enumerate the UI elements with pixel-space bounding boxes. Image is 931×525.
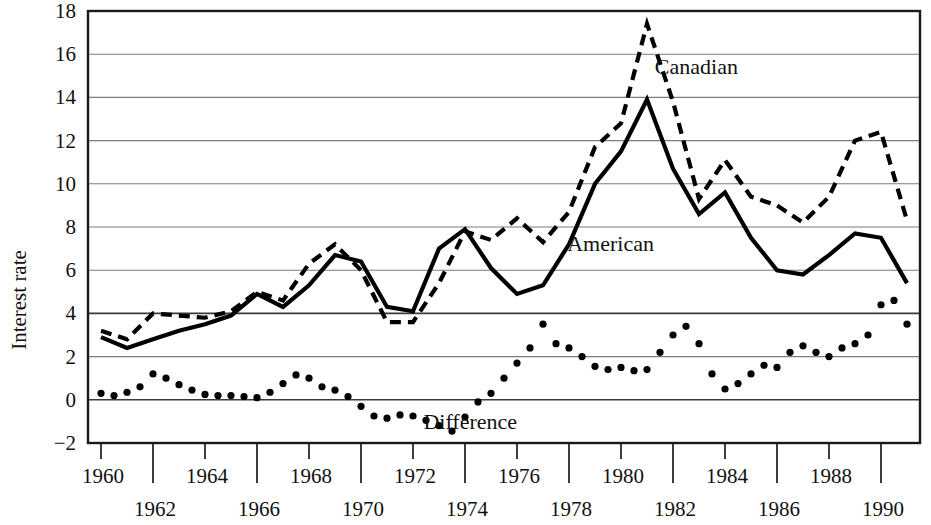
x-tick-label-1970: 1970 <box>342 497 384 521</box>
data-point <box>162 375 169 382</box>
series-annotations: CanadianAmericanDifference <box>423 54 738 434</box>
data-point <box>526 344 533 351</box>
x-tick-label-1976: 1976 <box>498 464 540 488</box>
data-point <box>695 340 702 347</box>
data-point <box>279 380 286 387</box>
data-point <box>669 331 676 338</box>
data-point <box>552 340 559 347</box>
chart-figure: −2024681012141618 1960196219641966196819… <box>0 0 931 525</box>
x-tick-label-1988: 1988 <box>810 464 852 488</box>
y-tick-label-16: 16 <box>55 42 76 66</box>
y-axis-tick-labels: −2024681012141618 <box>54 0 77 455</box>
y-axis-title: Interest rate <box>7 250 31 350</box>
data-point <box>565 344 572 351</box>
data-point <box>604 366 611 373</box>
data-point <box>487 390 494 397</box>
data-point <box>630 367 637 374</box>
data-point <box>331 386 338 393</box>
data-point <box>747 370 754 377</box>
y-tick-label-10: 10 <box>55 172 76 196</box>
y-tick-label-14: 14 <box>55 85 77 109</box>
data-point <box>578 353 585 360</box>
data-point <box>773 364 780 371</box>
y-tick-label-2: 2 <box>66 345 77 369</box>
y-tick-label--2: −2 <box>54 431 76 455</box>
x-tick-label-1968: 1968 <box>290 464 332 488</box>
y-tick-label-8: 8 <box>66 215 77 239</box>
data-point <box>227 392 234 399</box>
x-tick-label-1980: 1980 <box>602 464 644 488</box>
x-tick-label-1960: 1960 <box>82 464 124 488</box>
data-point <box>591 363 598 370</box>
x-tick-label-1990: 1990 <box>862 497 904 521</box>
series-american <box>101 100 907 348</box>
data-point <box>318 383 325 390</box>
data-point <box>409 412 416 419</box>
data-point <box>370 412 377 419</box>
data-point <box>643 366 650 373</box>
annotation-canadian: Canadian <box>655 54 738 79</box>
data-point <box>825 353 832 360</box>
data-point <box>266 389 273 396</box>
data-point <box>890 297 897 304</box>
data-point <box>201 391 208 398</box>
data-point <box>136 383 143 390</box>
data-point <box>903 321 910 328</box>
data-point <box>656 349 663 356</box>
x-tick-label-1972: 1972 <box>394 464 436 488</box>
x-tick-label-1974: 1974 <box>446 497 489 521</box>
data-point <box>799 342 806 349</box>
data-point <box>760 362 767 369</box>
data-point <box>864 331 871 338</box>
data-point <box>292 371 299 378</box>
interest-rate-line-chart: −2024681012141618 1960196219641966196819… <box>0 0 931 525</box>
data-point <box>877 301 884 308</box>
data-series <box>97 24 910 435</box>
data-point <box>149 370 156 377</box>
y-tick-label-18: 18 <box>55 0 76 23</box>
x-tick-label-1982: 1982 <box>654 497 696 521</box>
y-tick-label-6: 6 <box>66 258 77 282</box>
data-point <box>396 411 403 418</box>
data-point <box>682 323 689 330</box>
data-point <box>214 392 221 399</box>
data-point <box>110 392 117 399</box>
data-point <box>357 403 364 410</box>
data-point <box>838 344 845 351</box>
y-tick-label-12: 12 <box>55 129 76 153</box>
data-point <box>188 386 195 393</box>
data-point <box>721 385 728 392</box>
series-canadian <box>101 24 907 339</box>
x-tick-label-1984: 1984 <box>706 464 749 488</box>
data-point <box>240 393 247 400</box>
x-tick-label-1986: 1986 <box>758 497 800 521</box>
gridlines <box>88 54 920 400</box>
data-point <box>305 375 312 382</box>
data-point <box>812 349 819 356</box>
data-point <box>708 370 715 377</box>
data-point <box>617 364 624 371</box>
x-tick-label-1978: 1978 <box>550 497 592 521</box>
x-tick-label-1962: 1962 <box>134 497 176 521</box>
data-point <box>539 321 546 328</box>
annotation-american: American <box>567 231 654 256</box>
data-point <box>123 389 130 396</box>
x-tick-label-1966: 1966 <box>238 497 280 521</box>
y-tick-label-4: 4 <box>66 301 77 325</box>
data-point <box>734 380 741 387</box>
x-tick-label-1964: 1964 <box>186 464 229 488</box>
data-point <box>500 375 507 382</box>
data-point <box>344 393 351 400</box>
data-point <box>513 359 520 366</box>
data-point <box>253 394 260 401</box>
data-point <box>383 415 390 422</box>
data-point <box>851 340 858 347</box>
data-point <box>474 398 481 405</box>
y-tick-label-0: 0 <box>66 388 77 412</box>
data-point <box>786 349 793 356</box>
x-axis-tick-labels: 1960196219641966196819701972197419761978… <box>82 464 904 521</box>
data-point <box>175 381 182 388</box>
annotation-difference: Difference <box>423 409 517 434</box>
data-point <box>97 390 104 397</box>
